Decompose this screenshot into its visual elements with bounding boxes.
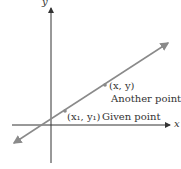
line-through-points-back: [14, 126, 40, 143]
another-point-coord: (x, y): [109, 81, 134, 91]
x-axis-label: x: [174, 119, 180, 129]
y-axis-label: y: [42, 0, 48, 7]
given-point-coord: (x₁, y₁): [67, 112, 100, 122]
coordinate-plane: [0, 0, 181, 169]
given-point-text: Given point: [102, 112, 160, 122]
another-point-text: Another point: [111, 94, 181, 104]
another-point-dot: [103, 83, 107, 87]
